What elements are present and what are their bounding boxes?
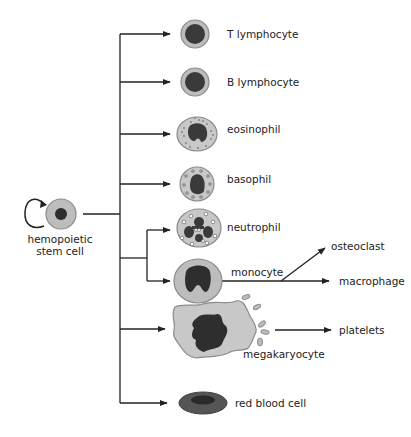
red-blood-cell-icon: [179, 392, 227, 414]
stem-cell-nucleus: [55, 208, 67, 220]
label-macrophage: macrophage: [339, 275, 405, 287]
label-osteoclast: osteoclast: [331, 240, 385, 252]
basophil-icon: [180, 167, 214, 201]
b-lymphocyte-icon: [181, 68, 209, 96]
eosinophil-icon: [177, 117, 217, 151]
label-monocyte: monocyte: [231, 266, 283, 278]
neutrophil-icon: [177, 209, 221, 247]
monocyte-icon: [174, 259, 222, 303]
label-neutrophil: neutrophil: [227, 221, 281, 233]
label-b-lymphocyte: B lymphocyte: [227, 76, 299, 88]
self-renewal-arrowhead-icon: [40, 200, 47, 208]
label-eosinophil: eosinophil: [227, 123, 281, 135]
label-platelets: platelets: [339, 324, 385, 336]
stem-cell-label-line1: hemopoietic: [27, 233, 92, 245]
label-t-lymphocyte: T lymphocyte: [227, 28, 298, 40]
label-red-blood-cell: red blood cell: [235, 397, 306, 409]
hemopoietic-stem-cell: [25, 199, 76, 229]
t-lymphocyte-icon: [181, 20, 209, 48]
label-megakaryocyte: megakaryocyte: [243, 348, 325, 360]
label-basophil: basophil: [227, 173, 271, 185]
stem-cell-label-line2: stem cell: [36, 245, 84, 257]
arrow-to-osteoclast: [281, 248, 325, 281]
differentiation-diagram: [0, 0, 411, 437]
